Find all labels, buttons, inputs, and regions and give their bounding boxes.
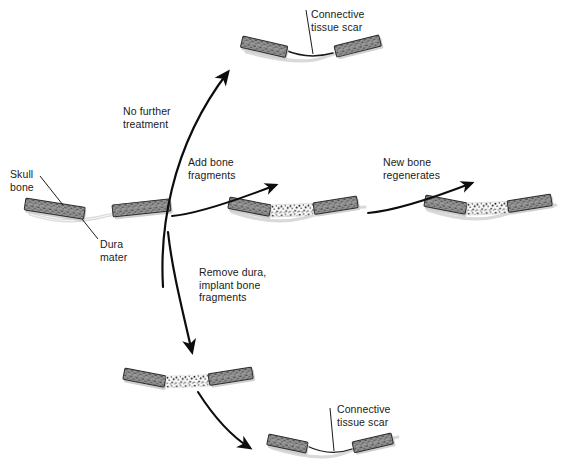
- node-regenerated-bone: [423, 194, 556, 219]
- arrow-remove-dura: [168, 232, 192, 352]
- diagram-canvas: Skull bone Dura mater No further treatme…: [0, 0, 571, 467]
- leader-line-connective-tissue-scar: [330, 408, 334, 451]
- bone-segment: [208, 367, 255, 388]
- label-new-bone-regenerates: New bone regenerates: [383, 156, 440, 181]
- label-connective-tissue-scar-top: Connective tissue scar: [311, 8, 365, 33]
- diagram-svg: [0, 0, 571, 467]
- connective-tissue-scar-line: [285, 50, 333, 56]
- bone-fragment-segment: [166, 374, 209, 387]
- arrow-scar-forms: [198, 392, 250, 448]
- bone-segment: [352, 433, 396, 456]
- bone-segment: [122, 368, 167, 390]
- bone-segment: [507, 194, 554, 215]
- connective-tissue-scar-line: [307, 446, 352, 452]
- leader-line-dura-mater: [82, 219, 98, 239]
- bone-segment: [334, 34, 384, 59]
- label-dura-mater: Dura mater: [100, 238, 127, 263]
- label-remove-dura: Remove dura, implant bone fragments: [199, 266, 266, 304]
- node-skull-defect-start: [24, 176, 173, 239]
- label-connective-tissue-scar-bottom: Connective tissue scar: [337, 403, 391, 428]
- label-add-bone-fragments: Add bone fragments: [188, 156, 236, 181]
- bone-fragment-segment: [271, 203, 314, 216]
- bone-segment: [313, 196, 360, 217]
- node-bone-fragments-implanted-no-dura: [122, 367, 255, 390]
- bone-fragment-segment: [467, 202, 508, 215]
- label-no-further-treatment: No further treatment: [123, 105, 171, 130]
- node-bone-fragments-implanted-with-dura: [227, 196, 365, 221]
- bone-segment: [112, 199, 173, 220]
- label-skull-bone: Skull bone: [10, 168, 34, 193]
